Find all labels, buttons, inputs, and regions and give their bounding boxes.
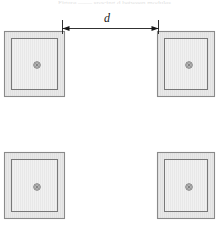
module-bottom-left (5, 153, 65, 219)
module-bottom-right-center-target-icon (186, 184, 193, 191)
module-top-right (158, 32, 215, 97)
module-bottom-right (158, 153, 215, 219)
dimension-arrowhead-left (63, 26, 70, 31)
module-top-left-center-target-icon (34, 62, 41, 69)
target-center-dot-icon (188, 64, 190, 66)
module-top-left (5, 32, 65, 97)
dimension-line-group (63, 20, 159, 34)
target-center-dot-icon (188, 186, 190, 188)
module-bottom-left-center-target-icon (34, 184, 41, 191)
target-center-dot-icon (36, 64, 38, 66)
diagram-canvas (0, 0, 219, 230)
modules-layer (5, 32, 215, 219)
module-top-left-inner-frame (12, 39, 58, 90)
dimension-label-d: d (104, 12, 110, 24)
figure-root: Figure —— spacing d between modules d (0, 0, 219, 230)
dimension-arrowhead-right (152, 26, 159, 31)
target-center-dot-icon (36, 186, 38, 188)
module-top-right-center-target-icon (186, 62, 193, 69)
